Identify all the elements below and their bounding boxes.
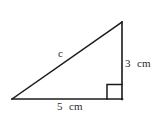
base-leg-length-label: 5 cm [57,101,83,112]
hypotenuse-label: c [58,48,63,59]
geometry-figure: c 3 cm 5 cm [0,0,162,121]
vertical-leg-length-label: 3 cm [125,58,151,69]
triangle-hypotenuse-line [12,22,122,99]
right-angle-marker-icon [107,85,122,100]
